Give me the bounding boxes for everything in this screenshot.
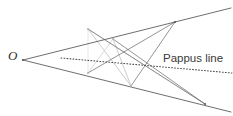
vertex-dot-a2 xyxy=(112,38,114,40)
vertex-label-o: O xyxy=(8,49,17,62)
vertex-dot-b3 xyxy=(204,103,206,105)
lower-ray xyxy=(23,60,231,112)
vertex-dot-b2 xyxy=(130,85,132,87)
cross-line-a3-b1 xyxy=(88,22,175,73)
vertex-dot-a3 xyxy=(174,21,176,23)
vertex-dot-o xyxy=(22,59,24,61)
pappus-line-label: Pappus line xyxy=(163,53,223,65)
cross-line-a1-b3 xyxy=(88,29,205,104)
vertex-dot-b1 xyxy=(87,72,89,74)
vertex-dot-a1 xyxy=(87,28,89,30)
cross-line-a2-b1 xyxy=(88,39,113,73)
pappus-figure: O Pappus line xyxy=(0,0,233,116)
